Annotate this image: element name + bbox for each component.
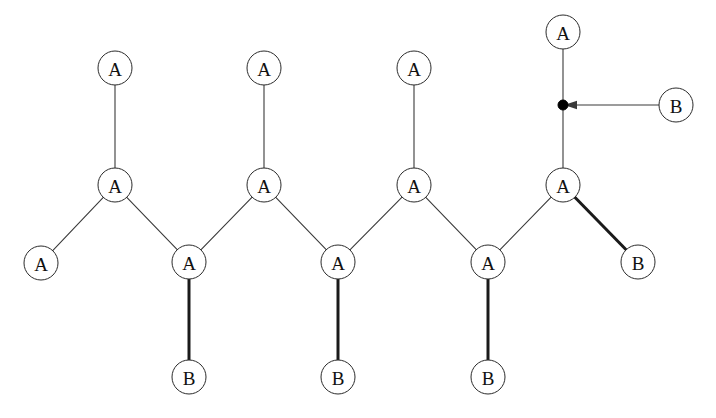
node-label-b_bot_3: B xyxy=(482,368,495,389)
bond-a_low_3-to-a_mid_4 xyxy=(500,197,551,250)
bonds-layer xyxy=(53,49,626,360)
nodes-layer: AAAAAAAAAAAABBBBB xyxy=(24,15,693,394)
node-a_mid_2[interactable]: A xyxy=(247,168,281,202)
node-a_low_3[interactable]: A xyxy=(471,245,505,279)
bond-a_low_1-to-a_mid_2 xyxy=(201,197,252,250)
bond-a_low_2-to-a_mid_3 xyxy=(350,197,402,250)
attachment-point-dot xyxy=(558,100,568,110)
node-b_bot_3[interactable]: B xyxy=(471,360,505,394)
node-a_top_1[interactable]: A xyxy=(98,51,132,85)
node-a_top_3[interactable]: A xyxy=(397,51,431,85)
node-label-a_mid_4: A xyxy=(556,176,570,197)
node-label-a_low_1: A xyxy=(182,253,196,274)
bond-a_mid_1-to-a_low_1 xyxy=(127,197,177,249)
node-label-b_callout: B xyxy=(670,96,683,117)
node-a_low_2[interactable]: A xyxy=(321,245,355,279)
node-label-a_top_1: A xyxy=(108,59,122,80)
node-label-a_top_2: A xyxy=(257,59,271,80)
node-label-a_low_3: A xyxy=(481,253,495,274)
attachment-point-dot xyxy=(558,100,568,110)
node-label-b_bot_2: B xyxy=(332,368,345,389)
node-label-a_low_2: A xyxy=(331,253,345,274)
node-label-a_mid_1: A xyxy=(108,176,122,197)
node-label-a_top_4: A xyxy=(556,23,570,44)
node-a_top_2[interactable]: A xyxy=(247,51,281,85)
node-b_right_end[interactable]: B xyxy=(621,245,655,279)
node-label-b_right_end: B xyxy=(632,253,645,274)
node-label-a_mid_2: A xyxy=(257,176,271,197)
node-label-a_mid_3: A xyxy=(407,176,421,197)
node-label-a_top_3: A xyxy=(407,59,421,80)
node-b_bot_1[interactable]: B xyxy=(172,360,206,394)
callout-arrow xyxy=(564,101,659,109)
node-a_mid_3[interactable]: A xyxy=(397,168,431,202)
diagram-svg: AAAAAAAAAAAABBBBB xyxy=(0,0,716,418)
node-label-b_bot_1: B xyxy=(183,368,196,389)
node-a_low_1[interactable]: A xyxy=(172,245,206,279)
node-a_left_end[interactable]: A xyxy=(24,246,58,280)
node-label-a_left_end: A xyxy=(34,254,48,275)
bond-a_mid_3-to-a_low_3 xyxy=(426,197,476,249)
bond-a_mid_2-to-a_low_2 xyxy=(276,197,326,249)
bond-a_mid_1-to-a_left_end xyxy=(53,197,104,250)
node-a_top_4[interactable]: A xyxy=(546,15,580,49)
node-a_mid_1[interactable]: A xyxy=(98,168,132,202)
node-b_bot_2[interactable]: B xyxy=(321,360,355,394)
node-b_callout[interactable]: B xyxy=(659,88,693,122)
node-a_mid_4[interactable]: A xyxy=(546,168,580,202)
diagram-canvas: AAAAAAAAAAAABBBBB xyxy=(0,0,716,418)
bond-a_mid_4-to-b_right_end xyxy=(575,197,626,250)
